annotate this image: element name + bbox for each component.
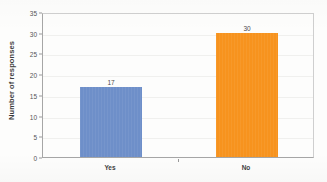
- bar-fill: [216, 33, 278, 157]
- bar-value-label: 17: [107, 79, 114, 86]
- y-axis-title-text: Number of responses: [7, 40, 16, 119]
- y-axis-tick-label: 30: [30, 30, 37, 37]
- bar-chart-figure: Number of responses 05101520253035 1730 …: [0, 0, 327, 182]
- x-axis-tick-mark: [178, 159, 179, 162]
- x-axis-tick-label-no: No: [242, 164, 251, 171]
- y-axis-tick-label: 15: [30, 92, 37, 99]
- plot-area: 1730: [42, 13, 314, 158]
- x-axis-tick-label-yes: Yes: [104, 164, 115, 171]
- y-axis-tick-label: 35: [30, 10, 37, 17]
- bar-yes: [80, 87, 142, 157]
- y-axis-tick-label: 10: [30, 113, 37, 120]
- y-axis-tick-label: 20: [30, 72, 37, 79]
- x-axis-tick-labels: YesNo: [42, 160, 314, 178]
- bar-value-label: 30: [243, 25, 250, 32]
- y-axis-tick-label: 25: [30, 51, 37, 58]
- y-axis-tick-label: 5: [33, 134, 37, 141]
- bar-no: [216, 33, 278, 157]
- bar-fill: [80, 87, 142, 157]
- y-axis-title: Number of responses: [0, 0, 22, 160]
- y-axis-tick-labels: 05101520253035: [22, 8, 40, 160]
- y-axis-tick-label: 0: [33, 155, 37, 162]
